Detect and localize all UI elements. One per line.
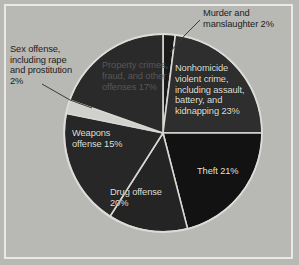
pie-label-weapons-offense: Weapons offense 15% <box>72 128 122 150</box>
pie-label-sex-offense: Sex offense, including rape and prostitu… <box>10 44 72 86</box>
pie-chart-figure: Murder and manslaughter 2% Sex offense, … <box>0 0 299 265</box>
pie-label-nonhomicide-violent-crime: Nonhomicide violent crime, including ass… <box>175 63 257 117</box>
pie-label-property-crimes: Property crimes, fraud, and other offens… <box>102 60 180 92</box>
pie-chart-canvas <box>0 0 299 265</box>
pie-label-murder-and-manslaughter: Murder and manslaughter 2% <box>203 8 274 29</box>
pie-label-theft: Theft 21% <box>197 166 238 177</box>
pie-label-drug-offense: Drug offense 20% <box>110 187 162 209</box>
